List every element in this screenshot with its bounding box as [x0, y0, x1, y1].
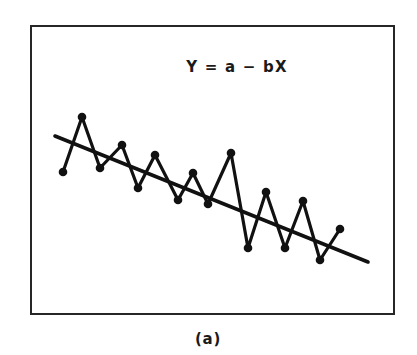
data-point-marker: [244, 244, 253, 253]
data-point-marker: [316, 256, 325, 265]
data-point-marker: [134, 184, 143, 193]
data-point-marker: [174, 196, 183, 205]
equation-annotation: Y = a − bX: [185, 58, 287, 76]
data-point-marker: [151, 151, 160, 160]
data-point-marker: [59, 168, 68, 177]
chart-background: [0, 0, 417, 355]
data-point-marker: [78, 113, 87, 122]
data-point-marker: [227, 149, 236, 158]
data-point-marker: [281, 244, 290, 253]
data-point-marker: [336, 225, 345, 234]
data-point-marker: [189, 169, 198, 178]
data-point-marker: [118, 141, 127, 150]
figure-container: Y = a − bX (a): [0, 0, 417, 355]
scatter-line-chart: Y = a − bX (a): [0, 0, 417, 355]
figure-caption: (a): [195, 330, 221, 348]
data-point-marker: [96, 164, 105, 173]
data-point-marker: [204, 200, 213, 209]
data-point-marker: [299, 197, 308, 206]
data-point-marker: [262, 188, 271, 197]
